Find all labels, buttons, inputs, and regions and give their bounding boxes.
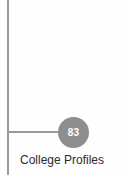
vertical-axis-line <box>7 0 9 175</box>
node-bubble-college-profiles[interactable]: 83 <box>58 117 89 148</box>
diagram-canvas: 83 College Profiles <box>0 0 124 175</box>
node-value-label: 83 <box>68 128 80 138</box>
node-connector-line <box>8 131 60 133</box>
node-caption-label: College Profiles <box>0 153 124 168</box>
